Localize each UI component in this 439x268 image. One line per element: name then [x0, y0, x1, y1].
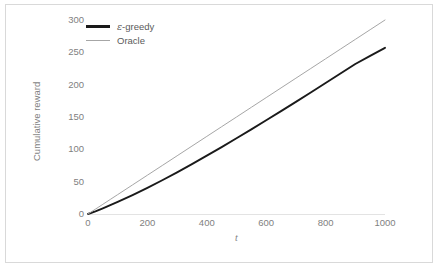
legend-item: ε-greedy [86, 20, 216, 33]
legend-line-swatch [86, 22, 110, 32]
y-axis-tick-labels: 050100150200250300 [44, 20, 84, 214]
x-tick-label: 600 [241, 217, 291, 229]
x-axis-line [88, 214, 385, 215]
x-tick-label: 800 [301, 217, 351, 229]
y-tick-label: 300 [48, 15, 84, 25]
x-tick-label: 0 [63, 217, 113, 229]
series-line-oracle [88, 20, 385, 214]
y-tick-label: 250 [48, 47, 84, 57]
x-tick-label: 200 [122, 217, 172, 229]
y-tick-label: 50 [48, 177, 84, 187]
y-tick-label: 150 [48, 112, 84, 122]
x-axis-tick-labels: 02004006008001000 [88, 217, 385, 231]
x-tick-label: 1000 [360, 217, 410, 229]
legend-item: Oracle [86, 34, 216, 47]
series-canvas [88, 20, 385, 214]
x-tick-label: 400 [182, 217, 232, 229]
chart-legend: ε-greedyOracle [86, 20, 216, 48]
legend-label: ε-greedy [117, 21, 154, 32]
legend-line-swatch [86, 36, 110, 46]
legend-label: Oracle [117, 35, 145, 46]
plot-area [88, 20, 385, 214]
x-axis-title: t [88, 232, 385, 243]
epsilon-symbol: ε [117, 21, 122, 32]
y-tick-label: 200 [48, 80, 84, 90]
y-axis-title: Cumulative reward [30, 56, 44, 186]
series-line-greedy [88, 48, 385, 214]
y-tick-label: 100 [48, 144, 84, 154]
chart-figure: Cumulative reward 050100150200250300 020… [0, 0, 439, 268]
